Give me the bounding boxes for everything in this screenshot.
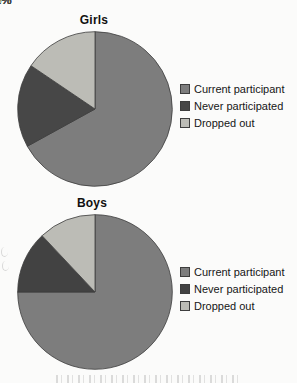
girls-pie (17, 31, 173, 187)
legend-swatch-dropped-icon (180, 301, 190, 311)
boys-chart-title: Boys (56, 196, 128, 210)
boys-pie (17, 214, 173, 370)
legend-item-current: Current participant (180, 263, 285, 280)
girls-chart-title: Girls (58, 13, 130, 27)
scan-artifact (2, 261, 9, 271)
boys-slice-value-dropped: 12% (0, 0, 12, 6)
legend-item-dropped: Dropped out (180, 297, 285, 314)
legend-swatch-never-icon (180, 101, 190, 111)
legend-label-current: Current participant (194, 83, 285, 95)
girls-legend: Current participant Never participated D… (180, 80, 285, 131)
legend-item-dropped: Dropped out (180, 114, 285, 131)
legend-swatch-current-icon (180, 84, 190, 94)
scan-artifact (1, 247, 8, 257)
legend-item-current: Current participant (180, 80, 285, 97)
legend-label-current: Current participant (194, 266, 285, 278)
legend-item-never: Never participated (180, 280, 285, 297)
figure-two-pie-charts: Girls 69% 18% 16% Current participant Ne… (0, 0, 297, 383)
legend-swatch-never-icon (180, 284, 190, 294)
cropped-caption-artifact (56, 375, 242, 383)
legend-label-dropped: Dropped out (194, 300, 255, 312)
legend-swatch-dropped-icon (180, 118, 190, 128)
legend-swatch-current-icon (180, 267, 190, 277)
legend-label-never: Never participated (194, 100, 283, 112)
boys-legend: Current participant Never participated D… (180, 263, 285, 314)
legend-item-never: Never participated (180, 97, 285, 114)
legend-label-never: Never participated (194, 283, 283, 295)
legend-label-dropped: Dropped out (194, 117, 255, 129)
